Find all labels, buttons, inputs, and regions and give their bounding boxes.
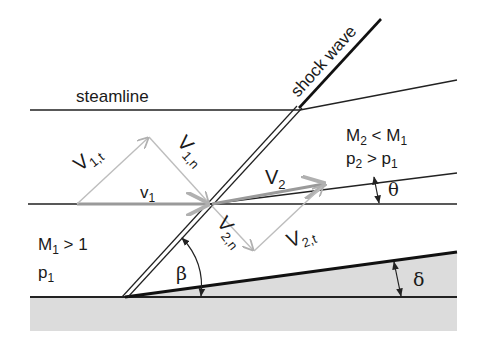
- oblique-shock-diagram: steamline shock wave M2 < M1 p2 > p1 M1 …: [0, 0, 483, 359]
- v2n-label: V2,n: [210, 212, 250, 253]
- delta-label: δ: [413, 268, 424, 290]
- theta-angle-arrow: [374, 177, 379, 203]
- streamline-label: steamline: [76, 87, 149, 106]
- v1-label: v1: [140, 183, 156, 205]
- theta-label: θ: [388, 179, 399, 200]
- beta-label: β: [176, 262, 187, 284]
- region1-pressure-label: p1: [38, 263, 54, 285]
- shock-wave-label: shock wave: [287, 22, 361, 101]
- wall-surface: [30, 252, 457, 331]
- v1n-label: V1,n: [170, 131, 210, 172]
- v2-label: V2: [265, 166, 286, 192]
- region2-pressure-label: p2 > p1: [346, 149, 398, 171]
- v1t-label: V1,t: [69, 140, 107, 178]
- v2t-label: V2,t: [283, 221, 319, 256]
- region1-mach-label: M1 > 1: [38, 235, 88, 257]
- region2-mach-label: M2 < M1: [346, 126, 407, 148]
